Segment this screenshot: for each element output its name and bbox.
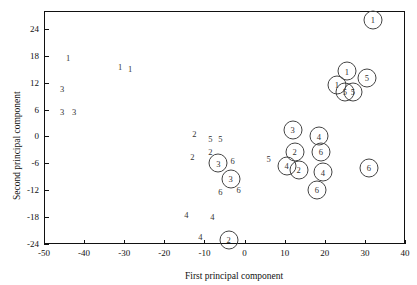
data-point: 3	[60, 108, 64, 117]
y-tick-label: 24	[12, 24, 39, 34]
data-point: 4	[210, 213, 214, 222]
data-point: 1	[128, 65, 132, 74]
x-tick	[124, 240, 125, 244]
x-tick-label: 40	[391, 248, 417, 258]
x-tick-label: -30	[110, 248, 138, 258]
data-point: 4	[198, 233, 202, 242]
x-tick	[325, 240, 326, 244]
data-point: 2	[192, 130, 196, 139]
data-point-circled: 5	[357, 69, 376, 88]
data-point-circled: 4	[313, 163, 332, 182]
y-tick	[44, 163, 49, 164]
data-point-circled: 6	[359, 158, 378, 177]
x-tick	[285, 240, 286, 244]
data-point: 5	[218, 134, 222, 143]
y-tick-label: 18	[12, 51, 39, 61]
data-point: 6	[236, 186, 240, 195]
x-tick-label: -10	[190, 248, 218, 258]
x-tick-label: 0	[231, 248, 259, 258]
data-point-circled: 6	[307, 181, 326, 200]
x-tick	[204, 240, 205, 244]
y-tick-label: 12	[12, 78, 39, 88]
x-tick	[365, 240, 366, 244]
y-axis-title: Second principal component	[12, 91, 22, 200]
y-tick	[44, 29, 49, 30]
x-tick-label: 30	[351, 248, 379, 258]
plot-frame	[44, 11, 405, 244]
data-point: 3	[72, 108, 76, 117]
data-point: 3	[60, 85, 64, 94]
x-tick-label: -20	[150, 248, 178, 258]
x-tick-label: -50	[30, 248, 58, 258]
data-point: 5	[266, 155, 270, 164]
data-point-circled: 2	[219, 230, 238, 249]
x-tick	[84, 240, 85, 244]
y-tick	[44, 110, 49, 111]
data-point: 5	[208, 134, 212, 143]
data-point-circled: 6	[311, 143, 330, 162]
x-axis-title: First principal component	[185, 271, 283, 281]
x-tick	[405, 240, 406, 244]
data-point: 2	[190, 152, 194, 161]
data-point-circled: 3	[283, 120, 302, 139]
data-point: 6	[218, 188, 222, 197]
data-point: 6	[230, 157, 234, 166]
data-point: 1	[118, 63, 122, 72]
scatter-plot: -50-40-30-20-10010203040 -24-18-12-60612…	[0, 0, 417, 285]
data-point: 1	[66, 54, 70, 63]
y-tick	[44, 244, 49, 245]
data-point-circled: 2	[289, 161, 308, 180]
y-tick	[44, 83, 49, 84]
y-tick	[44, 190, 49, 191]
x-tick-label: -40	[70, 248, 98, 258]
x-tick	[245, 240, 246, 244]
y-tick	[44, 136, 49, 137]
data-point: 4	[184, 211, 188, 220]
x-tick	[164, 240, 165, 244]
x-tick-label: 20	[311, 248, 339, 258]
y-tick-label: -24	[12, 239, 39, 249]
x-tick-label: 10	[271, 248, 299, 258]
y-tick-label: -18	[12, 212, 39, 222]
y-tick	[44, 217, 49, 218]
y-tick	[44, 56, 49, 57]
data-point-circled: 1	[363, 10, 382, 29]
